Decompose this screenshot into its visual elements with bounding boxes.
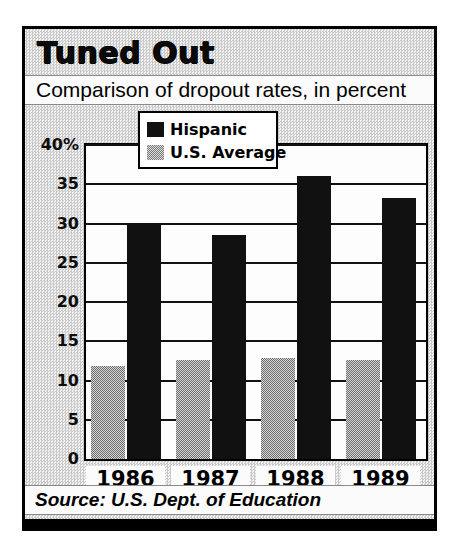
chart-title: Tuned Out: [37, 35, 215, 70]
gridline: [86, 183, 426, 185]
y-axis-tick-label: 5: [31, 410, 79, 429]
y-axis-tick-label: 0: [31, 449, 79, 468]
y-axis: 40%35302520151050: [25, 143, 79, 461]
plot-inner: [86, 145, 426, 459]
y-axis-tick-label: 25: [31, 253, 79, 272]
bar-hispanic-1989: [382, 198, 416, 459]
source-note: Source: U.S. Dept. of Education: [35, 489, 321, 511]
y-axis-tick-label: 20: [31, 292, 79, 311]
legend-swatch-us-average: [147, 145, 164, 160]
bar-hispanic-1988: [297, 176, 331, 459]
y-axis-tick-label: 35: [31, 174, 79, 193]
chart-subtitle: Comparison of dropout rates, in percent: [36, 78, 406, 102]
y-axis-tick-label: 40%: [31, 135, 79, 154]
chart-figure: Tuned Out Comparison of dropout rates, i…: [22, 26, 437, 531]
y-axis-tick-label: 15: [31, 331, 79, 350]
legend-label-us-average: U.S. Average: [170, 143, 286, 162]
y-axis-tick-label: 10: [31, 371, 79, 390]
subtitle-band: Comparison of dropout rates, in percent: [25, 75, 434, 105]
legend-item-us-average: U.S. Average: [147, 141, 276, 164]
bar-u-s-average-1987: [176, 360, 210, 459]
bar-u-s-average-1989: [346, 360, 380, 459]
bottom-rule: [25, 519, 434, 528]
y-axis-tick-label: 30: [31, 214, 79, 233]
legend-item-hispanic: Hispanic: [147, 118, 276, 141]
source-band: Source: U.S. Dept. of Education: [25, 485, 434, 515]
legend-label-hispanic: Hispanic: [170, 120, 247, 139]
legend-swatch-hispanic: [147, 122, 164, 137]
chart-legend: Hispanic U.S. Average: [138, 111, 278, 169]
bar-u-s-average-1988: [261, 358, 295, 459]
bar-hispanic-1986: [127, 225, 161, 459]
bar-hispanic-1987: [212, 235, 246, 459]
bar-u-s-average-1986: [91, 366, 125, 459]
plot-area: [84, 143, 428, 461]
